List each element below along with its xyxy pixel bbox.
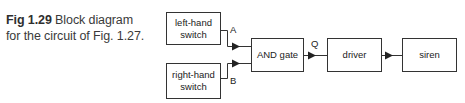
- siren-label: siren: [419, 49, 440, 61]
- arrow-b-icon: [232, 60, 240, 68]
- arrow-driver-siren-icon: [385, 52, 393, 60]
- right-switch-label-line1: right-hand: [172, 69, 215, 80]
- left-hand-switch-block: left-hand switch: [166, 12, 221, 45]
- arrow-q-icon: [308, 52, 316, 60]
- left-switch-label-line1: left-hand: [175, 17, 212, 28]
- arrow-a-icon: [232, 43, 240, 51]
- and-gate-block: AND gate: [251, 38, 304, 72]
- signal-label-b: B: [230, 75, 236, 86]
- right-hand-switch-block: right-hand switch: [166, 63, 221, 99]
- and-gate-label: AND gate: [257, 49, 298, 61]
- signal-label-a: A: [230, 24, 236, 35]
- left-switch-label-line2: switch: [180, 29, 206, 40]
- driver-label: driver: [343, 49, 367, 61]
- driver-block: driver: [327, 38, 382, 72]
- right-switch-label-line2: switch: [180, 81, 206, 92]
- siren-block: siren: [402, 38, 457, 72]
- signal-label-q: Q: [311, 38, 318, 49]
- connection-wires: [0, 0, 465, 103]
